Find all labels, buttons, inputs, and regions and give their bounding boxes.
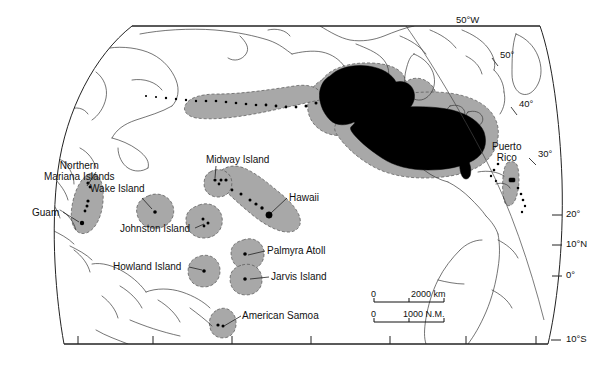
label-johnston-island: Johnston Island [120,223,190,234]
label-latitude-30: 30° [538,148,552,159]
label-longitude-50w: 50°W [456,14,479,25]
label-puerto-rico-line1: Puerto [492,141,521,152]
palmyra-dot [243,252,247,256]
jarvis-dot [243,277,247,281]
label-latitude-40: 40° [519,98,533,109]
label-jarvis-island: Jarvis Island [271,271,327,282]
label-latitude-10s: 10°S [566,333,587,344]
scale-km-value: 2000 km [411,289,446,299]
label-howland-island: Howland Island [113,261,181,272]
label-wake-island: Wake Island [90,183,145,194]
scale-km-zero: 0 [371,289,376,299]
label-puerto-rico: Puerto Rico [492,141,521,163]
eez-johnston [186,204,222,238]
howland-dot [202,269,206,273]
label-northern-mariana-line1: Northern [60,160,99,171]
label-palmyra-atoll: Palmyra Atoll [267,245,325,256]
label-latitude-20: 20° [566,208,580,219]
label-latitude-0: 0° [566,269,575,280]
scale-nm-zero: 0 [371,309,376,319]
label-american-samoa: American Samoa [242,310,319,321]
label-hawaii: Hawaii [289,192,319,203]
label-midway-island: Midway Island [206,154,269,165]
label-latitude-10n: 10°N [566,238,587,249]
land-puerto-rico [509,178,515,182]
wake-dot [153,210,157,214]
label-latitude-50: 50° [500,49,514,60]
label-northern-mariana-islands: Northern Mariana Islands [44,160,115,182]
label-puerto-rico-line2: Rico [497,152,517,163]
scale-nm-value: 1000 N.M. [403,309,445,319]
label-northern-mariana-line2: Mariana Islands [44,171,115,182]
eez-samoa [209,308,236,338]
label-guam: Guam [32,207,59,218]
map-figure: United States Exclusive Economic Zone [0,0,606,369]
